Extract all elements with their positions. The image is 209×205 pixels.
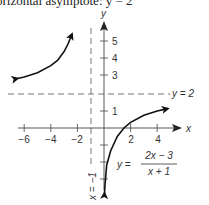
equation-numerator: 2x − 3 xyxy=(144,150,173,161)
h-asymptote-label: y = 2 xyxy=(171,88,194,99)
x-tick-label: −4 xyxy=(45,134,57,145)
y-tick-label: 1 xyxy=(112,106,118,117)
y-tick-label: 4 xyxy=(112,53,118,64)
y-tick-label: 5 xyxy=(112,36,118,47)
x-tick-label: −2 xyxy=(71,134,83,145)
curve-left-branch xyxy=(18,34,73,79)
equation-lhs: y = xyxy=(116,159,131,170)
x-axis-label: x xyxy=(185,123,192,134)
x-tick-label: 4 xyxy=(155,134,161,145)
y-axis-label: y xyxy=(100,8,107,19)
equation-denominator: x + 1 xyxy=(147,166,170,177)
y-tick-label: 3 xyxy=(112,70,118,81)
v-asymptote-label: x = −1 xyxy=(87,172,98,201)
x-tick-label: 2 xyxy=(128,134,134,145)
function-graph: −6 −4 −2 2 4 5 4 3 1 x y y = 2 x = −1 y … xyxy=(0,0,209,205)
x-tick-label: −6 xyxy=(18,134,30,145)
